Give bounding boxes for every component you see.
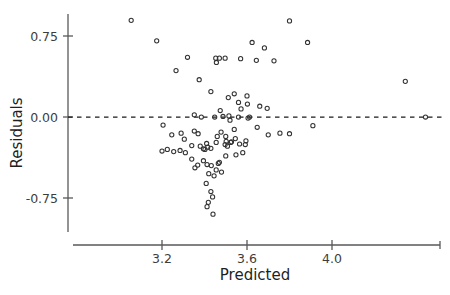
scatter-point bbox=[165, 147, 169, 151]
scatter-point bbox=[233, 137, 237, 141]
x-tick-label: 3.6 bbox=[237, 251, 257, 266]
y-tick-label: 0.75 bbox=[30, 29, 58, 44]
scatter-point bbox=[239, 107, 243, 111]
scatter-point bbox=[241, 151, 245, 155]
scatter-point bbox=[223, 56, 227, 60]
scatter-point bbox=[214, 140, 218, 144]
scatter-point bbox=[287, 132, 291, 136]
scatter-point bbox=[224, 134, 228, 138]
scatter-point bbox=[205, 205, 209, 209]
x-axis-tick-labels: 3.23.64.0 bbox=[152, 251, 342, 266]
scatter-point bbox=[236, 100, 240, 104]
y-axis-tick-labels: 0.750.00-0.75 bbox=[26, 29, 58, 206]
scatter-point bbox=[210, 195, 214, 199]
scatter-point bbox=[245, 94, 249, 98]
scatter-point bbox=[255, 125, 259, 129]
scatter-point bbox=[224, 154, 228, 158]
scatter-point bbox=[254, 58, 258, 62]
x-tick-label: 4.0 bbox=[322, 251, 342, 266]
scatter-point bbox=[239, 57, 243, 61]
scatter-point bbox=[232, 127, 236, 131]
scatter-point bbox=[204, 181, 208, 185]
plot-canvas: 0.750.00-0.75 3.23.64.0 Predicted Residu… bbox=[0, 0, 450, 295]
scatter-point bbox=[237, 142, 241, 146]
scatter-point bbox=[205, 162, 209, 166]
residual-scatter-plot: 0.750.00-0.75 3.23.64.0 Predicted Residu… bbox=[0, 0, 450, 295]
x-tick-label: 3.2 bbox=[152, 251, 172, 266]
scatter-point bbox=[193, 166, 197, 170]
scatter-point bbox=[160, 149, 164, 153]
scatter-point bbox=[179, 131, 183, 135]
scatter-point bbox=[209, 90, 213, 94]
scatter-point bbox=[196, 132, 200, 136]
scatter-point bbox=[199, 115, 203, 119]
scatter-point bbox=[265, 106, 269, 110]
scatter-point bbox=[216, 161, 220, 165]
scatter-point bbox=[305, 40, 309, 44]
scatter-point bbox=[250, 40, 254, 44]
scatter-point bbox=[245, 102, 249, 106]
scatter-point bbox=[185, 55, 189, 59]
scatter-point bbox=[262, 46, 266, 50]
scatter-point bbox=[161, 123, 165, 127]
scatter-point bbox=[218, 108, 222, 112]
scatter-point bbox=[423, 115, 427, 119]
scatter-point bbox=[129, 18, 133, 22]
scatter-point bbox=[258, 104, 262, 108]
scatter-point bbox=[192, 129, 196, 133]
scatter-point bbox=[232, 92, 236, 96]
scatter-point bbox=[206, 200, 210, 204]
scatter-point bbox=[178, 148, 182, 152]
scatter-point bbox=[201, 159, 205, 163]
scatter-point bbox=[155, 39, 159, 43]
scatter-point bbox=[190, 157, 194, 161]
scatter-point bbox=[174, 68, 178, 72]
scatter-point bbox=[209, 164, 213, 168]
scatter-point bbox=[266, 133, 270, 137]
scatter-point bbox=[190, 144, 194, 148]
y-axis: 0.750.00-0.75 bbox=[26, 14, 73, 232]
x-axis-title: Predicted bbox=[220, 266, 290, 284]
scatter-point bbox=[212, 174, 216, 178]
scatter-point bbox=[211, 212, 215, 216]
scatter-point bbox=[172, 149, 176, 153]
scatter-point bbox=[209, 189, 213, 193]
scatter-point bbox=[197, 78, 201, 82]
y-tick-label: -0.75 bbox=[26, 191, 58, 206]
scatter-point bbox=[192, 113, 196, 117]
scatter-point bbox=[170, 133, 174, 137]
scatter-point bbox=[183, 151, 187, 155]
scatter-point bbox=[207, 172, 211, 176]
scatter-point bbox=[226, 95, 230, 99]
scatter-point bbox=[182, 137, 186, 141]
scatter-point bbox=[214, 60, 218, 64]
scatter-point bbox=[219, 170, 223, 174]
y-tick-label: 0.00 bbox=[30, 110, 58, 125]
scatter-point bbox=[234, 153, 238, 157]
scatter-point bbox=[227, 114, 231, 118]
scatter-point bbox=[403, 79, 407, 83]
x-axis: 3.23.64.0 bbox=[73, 240, 440, 266]
scatter-point bbox=[287, 19, 291, 23]
scatter-point bbox=[311, 124, 315, 128]
scatter-point bbox=[272, 59, 276, 63]
scatter-point bbox=[214, 168, 218, 172]
scatter-point bbox=[215, 134, 219, 138]
y-axis-title: Residuals bbox=[8, 97, 26, 168]
scatter-point bbox=[278, 131, 282, 135]
scatter-point bbox=[219, 130, 223, 134]
scatter-point bbox=[228, 118, 232, 122]
